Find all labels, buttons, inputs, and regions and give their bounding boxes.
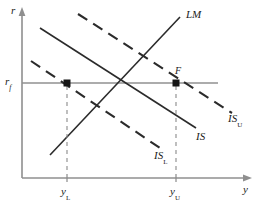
lm-base: LM: [186, 8, 201, 20]
yl-subscript: L: [66, 194, 70, 202]
point-label-f: F: [175, 66, 181, 76]
is-l-base: IS: [154, 149, 163, 161]
curve-is: [40, 28, 196, 128]
y-axis-arrowhead: [19, 7, 26, 16]
curve-label-is: IS: [196, 131, 205, 142]
plot-area: [0, 0, 264, 210]
is-u-subscript: U: [237, 121, 242, 129]
marker-point-f: [173, 80, 180, 87]
is-l-subscript: L: [163, 158, 167, 166]
is-lm-figure: r y rf LM ISU IS ISL F yL yU: [0, 0, 264, 210]
curve-is-l: [31, 61, 160, 148]
rf-axis-label: rf: [5, 76, 11, 90]
axes-group: [19, 7, 252, 181]
is-base: IS: [196, 130, 205, 142]
tick-label-yl: yL: [61, 186, 70, 200]
curve-is-u: [78, 14, 232, 113]
tick-label-yu: yU: [170, 186, 180, 200]
curve-label-is-l: ISL: [154, 150, 167, 164]
x-axis-label: y: [243, 184, 248, 195]
x-axis-arrowhead: [243, 175, 252, 182]
is-u-base: IS: [228, 112, 237, 124]
marker-point-l: [64, 80, 71, 87]
y-axis-label: r: [11, 5, 15, 16]
curve-label-lm: LM: [186, 9, 201, 20]
yu-subscript: U: [175, 194, 180, 202]
curve-label-is-u: ISU: [228, 113, 242, 127]
